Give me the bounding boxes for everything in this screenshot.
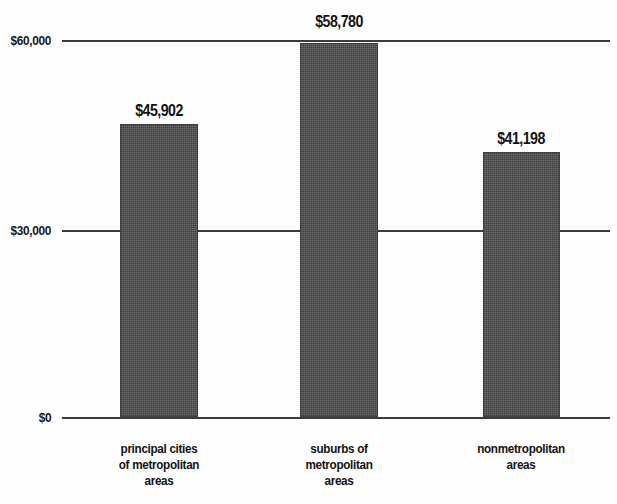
bar-principal-cities	[120, 124, 198, 417]
category-label-line: principal cities	[87, 441, 231, 457]
y-tick-label-0: $0	[38, 410, 51, 425]
y-tick-label-30000: $30,000	[11, 223, 51, 238]
category-label-line: suburbs of	[267, 441, 411, 457]
bar-value-label-principal-cities: $45,902	[107, 101, 210, 120]
bar-value-label-nonmetropolitan: $41,198	[469, 129, 572, 148]
category-label-line: metropolitan	[267, 457, 411, 473]
bar-nonmetropolitan	[483, 152, 560, 417]
axis-baseline-0	[62, 417, 610, 419]
category-label-line: of metropolitan	[87, 457, 231, 473]
category-label-principal-cities: principal cities of metropolitan areas	[87, 441, 231, 489]
category-label-line: areas	[87, 473, 231, 489]
y-tick-label-60000: $60,000	[11, 33, 51, 48]
bar-chart: $60,000 $30,000 $0 $45,902 principal cit…	[0, 0, 617, 504]
bar-suburbs	[300, 43, 378, 417]
bar-value-label-suburbs: $58,780	[287, 12, 390, 31]
category-label-line: nonmetropolitan	[449, 441, 593, 457]
category-label-suburbs: suburbs of metropolitan areas	[267, 441, 411, 489]
plot-area: $60,000 $30,000 $0 $45,902 principal cit…	[0, 0, 617, 504]
gridline-60000	[62, 40, 610, 42]
category-label-line: areas	[449, 457, 593, 473]
category-label-nonmetropolitan: nonmetropolitan areas	[449, 441, 593, 473]
category-label-line: areas	[267, 473, 411, 489]
